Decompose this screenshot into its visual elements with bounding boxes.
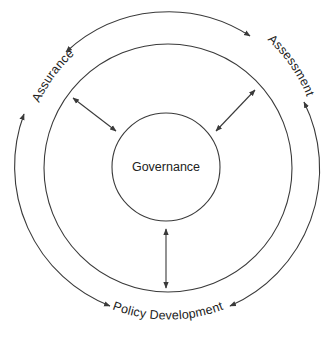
assessment-label-text: Assessment — [265, 32, 317, 99]
connector-arrow-assurance — [73, 98, 116, 131]
arc-arrow-assurance-assessment — [66, 12, 250, 52]
assurance-label: Assurance — [29, 46, 77, 104]
arc-arrow-assessment-policy — [230, 102, 320, 306]
policy-development-label: Policy Development — [111, 299, 225, 323]
policy-development-label-text: Policy Development — [111, 299, 225, 323]
governance-label: Governance — [132, 160, 200, 174]
diagram-canvas: Governance Assurance Assessment Policy D… — [0, 0, 334, 346]
connector-arrow-assessment — [216, 90, 255, 131]
arc-arrow-assurance-policy — [15, 114, 110, 306]
governance-cycle-diagram: Governance Assurance Assessment Policy D… — [0, 0, 334, 346]
assurance-label-text: Assurance — [29, 46, 77, 104]
assessment-label: Assessment — [265, 32, 317, 99]
